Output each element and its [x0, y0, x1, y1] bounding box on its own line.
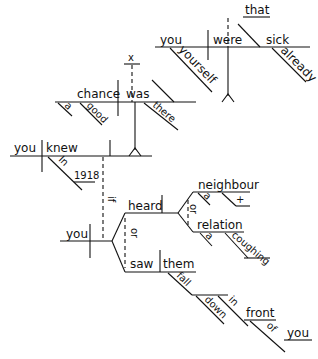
word-chance: chance: [77, 87, 120, 101]
word-plus: +: [236, 194, 244, 205]
word-x: x: [128, 52, 134, 63]
word-heard: heard: [128, 199, 163, 213]
word-them: them: [163, 257, 194, 271]
word-or: or: [188, 204, 199, 215]
word-neighbour: neighbour: [198, 178, 259, 192]
word-yourself: yourself: [176, 42, 220, 87]
sentence-diagram: that you were sick already yourself x ch…: [0, 0, 318, 359]
word-in: in: [227, 294, 241, 308]
that-clause: that you were sick already yourself: [155, 3, 318, 102]
word-1918: 1918: [74, 170, 99, 181]
word-you: you: [14, 141, 36, 155]
word-front: front: [246, 306, 275, 320]
word-coughing: coughing: [230, 229, 272, 267]
word-if: if: [106, 196, 117, 203]
if-clause: you or heard or neighbour a + relation a…: [60, 178, 312, 352]
diagram-canvas: that you were sick already yourself x ch…: [0, 0, 318, 359]
word-of: of: [265, 320, 280, 335]
word-knew: knew: [46, 141, 78, 155]
word-or: or: [129, 228, 140, 239]
word-you: you: [160, 33, 182, 47]
word-already: already: [278, 43, 318, 85]
word-that: that: [245, 3, 270, 17]
word-good: good: [85, 100, 110, 125]
word-you: you: [66, 227, 88, 241]
main-clause: you knew In 1918 if: [10, 140, 152, 240]
word-you: you: [287, 326, 309, 340]
word-saw: saw: [130, 257, 154, 271]
word-were: were: [213, 33, 242, 47]
word-was: was: [126, 87, 149, 101]
